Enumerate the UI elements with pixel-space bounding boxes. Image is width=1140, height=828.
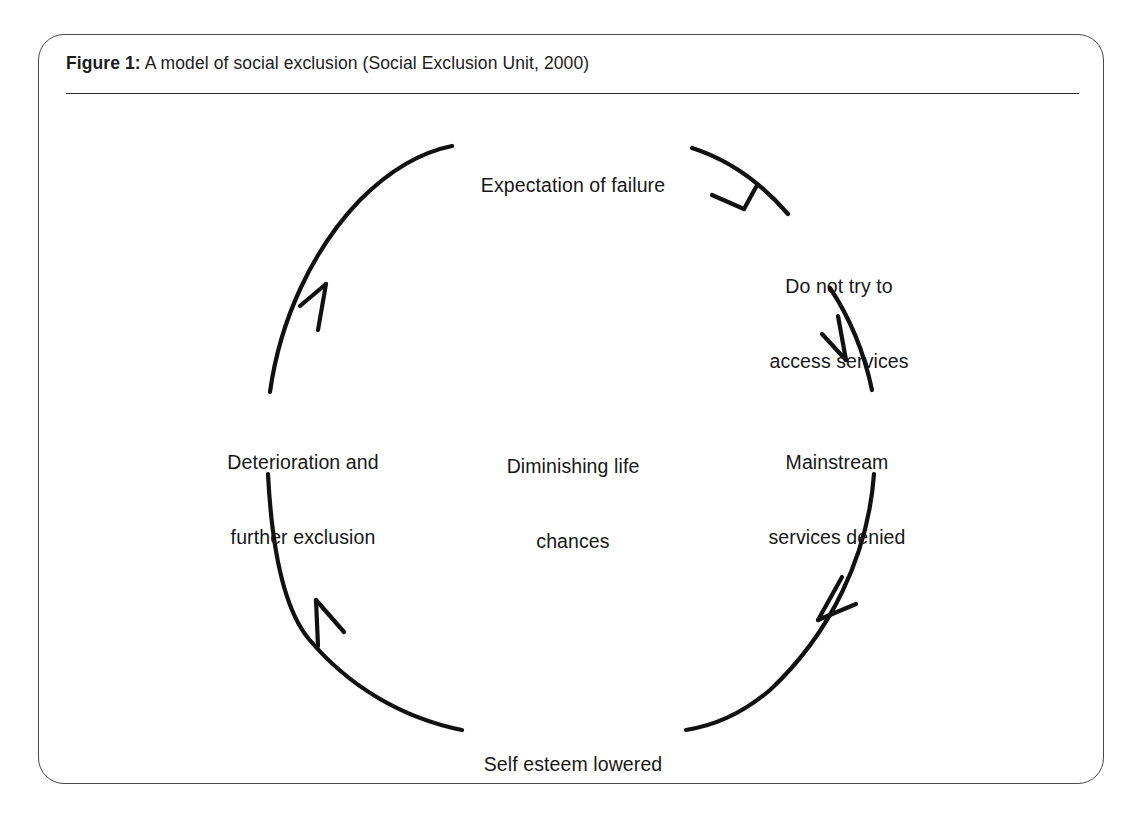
center-label-line2: chances [448, 529, 698, 554]
node-deterioration-line2: further exclusion [178, 525, 428, 550]
node-do-not-try-to-access-services: Do not try to access services [714, 224, 964, 424]
node-deterioration-line1: Deterioration and [178, 450, 428, 475]
figure-caption: Figure 1: A model of social exclusion (S… [66, 52, 1066, 74]
center-label-line1: Diminishing life [448, 454, 698, 479]
caption-divider-rule [66, 93, 1079, 94]
node-mainstream-services-denied: Mainstream services denied [712, 400, 962, 600]
node-expectation-of-failure: Expectation of failure [388, 123, 758, 248]
node-selfesteem-line1: Self esteem lowered [388, 752, 758, 777]
node-mainstream-line1: Mainstream [712, 450, 962, 475]
node-deterioration-and-further-exclusion: Deterioration and further exclusion [178, 400, 428, 600]
node-expectation-line1: Expectation of failure [388, 173, 758, 198]
node-mainstream-line2: services denied [712, 525, 962, 550]
figure-caption-text: A model of social exclusion (Social Excl… [141, 53, 589, 73]
node-self-esteem-lowered: Self esteem lowered [388, 702, 758, 827]
figure-number-label: Figure 1: [66, 53, 141, 73]
node-donottry-line2: access services [714, 349, 964, 374]
center-label-diminishing-life-chances: Diminishing life chances [448, 404, 698, 604]
node-donottry-line1: Do not try to [714, 274, 964, 299]
figure-page: Figure 1: A model of social exclusion (S… [0, 0, 1140, 828]
